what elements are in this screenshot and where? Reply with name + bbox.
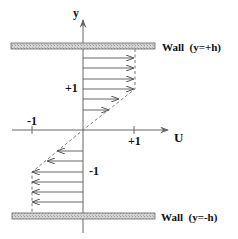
y-axis-label: y	[73, 6, 79, 20]
y-tick-label-neg1: -1	[89, 164, 99, 178]
lower-velocity-arrows	[33, 151, 83, 202]
top-wall	[11, 43, 155, 49]
bottom-wall-label: Wall (y=-h)	[161, 211, 218, 224]
bottom-wall	[12, 213, 155, 219]
y-tick-label-pos1: +1	[65, 81, 78, 95]
x-axis-label: U	[174, 130, 184, 145]
x-tick-label-pos1: +1	[128, 134, 141, 148]
upper-velocity-arrows	[83, 58, 133, 110]
x-tick-label-neg1: -1	[27, 114, 37, 128]
top-wall-label: Wall (y=+h)	[162, 41, 221, 54]
velocity-profile-diagram: y U -1 +1 +1 -1 Wall (y=+h) Wall (y=-h)	[0, 0, 238, 239]
